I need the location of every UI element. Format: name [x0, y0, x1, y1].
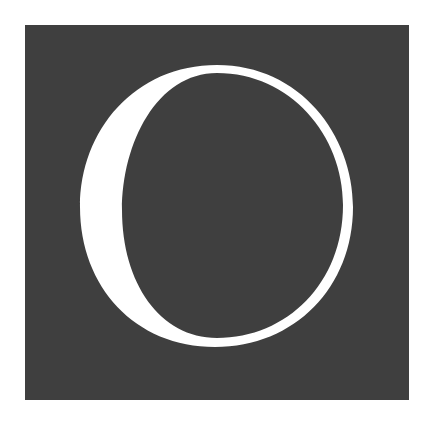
drop-cap-box: O: [25, 25, 409, 400]
letter-o-glyph: O: [25, 25, 409, 400]
